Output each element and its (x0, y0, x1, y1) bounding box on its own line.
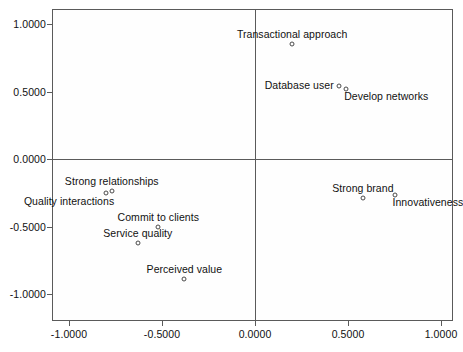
x-axis-tick (69, 321, 70, 326)
x-axis-tick-label: -0.5000 (144, 328, 180, 340)
data-point-label: Transactional approach (237, 28, 347, 40)
x-axis-tick-label: -1.0000 (51, 328, 87, 340)
zero-reference-line-vertical (255, 9, 256, 321)
zero-reference-line-horizontal (52, 159, 453, 160)
x-axis-tick (162, 321, 163, 326)
data-point-marker (360, 196, 365, 201)
y-axis-tick-label: 1.0000 (13, 18, 46, 30)
x-axis-tick-label: 0.0000 (239, 328, 272, 340)
x-axis-tick-label: 1.0000 (425, 328, 458, 340)
data-point-label: Perceived value (147, 263, 222, 275)
y-axis-tick (47, 227, 52, 228)
data-point-label: Commit to clients (118, 211, 199, 223)
data-point-label: Database user (265, 79, 334, 91)
data-point-label: Strong brand (332, 182, 393, 194)
x-axis-tick (348, 321, 349, 326)
data-point-label: Strong relationships (65, 175, 159, 187)
data-point-marker (135, 240, 140, 245)
x-axis-tick-label: 0.5000 (332, 328, 365, 340)
y-axis-tick-label: 0.5000 (13, 86, 46, 98)
data-point-marker (336, 84, 341, 89)
data-point-marker (290, 42, 295, 47)
data-point-label: Develop networks (344, 90, 428, 102)
y-axis-tick-label: -1.0000 (10, 288, 46, 300)
y-axis-tick (47, 24, 52, 25)
y-axis-tick (47, 159, 52, 160)
y-axis-tick (47, 92, 52, 93)
data-point-label: Service quality (103, 227, 172, 239)
data-point-marker (109, 189, 114, 194)
x-axis-tick (441, 321, 442, 326)
data-point-marker (182, 277, 187, 282)
data-point-label: Innovativeness (393, 196, 463, 208)
y-axis-tick-label: -0.5000 (10, 221, 46, 233)
x-axis-tick (255, 321, 256, 326)
y-axis-tick-label: 0.0000 (13, 153, 46, 165)
data-point-label: Quality interactions (24, 195, 114, 207)
plot-frame (52, 9, 453, 321)
y-axis-tick (47, 294, 52, 295)
